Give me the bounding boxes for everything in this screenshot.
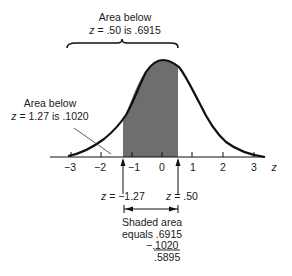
top-annotation-line2: z = .50 is .6915 [85,24,165,37]
arrow-head-left [121,158,126,166]
calc-line4: .5895 [154,251,180,264]
tick-label-neg1: −1 [128,161,140,173]
tick-label-neg3: −3 [64,161,76,173]
top-annotation-line1: Area below [85,11,165,24]
axis-ticks [71,152,254,157]
tick-label-0: 0 [159,161,165,173]
tick-label-2: 2 [220,161,226,173]
shaded-area [123,60,178,157]
axis-variable-label: z [271,161,276,173]
left-annotation-line2: z = 1.27 is .1020 [6,110,94,123]
top-annotation: Area below z = .50 is .6915 [85,11,165,37]
marker-right-label: z = .50 [166,190,198,203]
left-annotation-line1: Area below [6,97,94,110]
tick-label-neg2: −2 [94,161,106,173]
span-arrow-head-left [125,207,133,212]
tick-label-1: 1 [190,161,196,173]
arrow-head-right [176,158,181,166]
left-annotation: Area below z = 1.27 is .1020 [6,97,94,123]
marker-left-label: z = −1.27 [101,190,145,203]
tick-label-3: 3 [251,161,257,173]
top-brace [67,39,178,48]
span-arrow-head-right [169,207,177,212]
left-annotation-pointer [74,128,111,154]
